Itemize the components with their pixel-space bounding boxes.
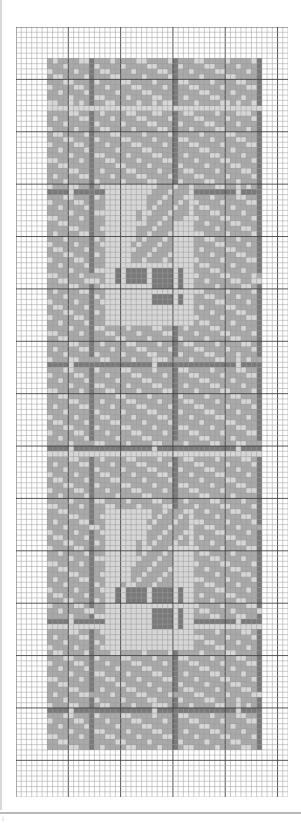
cross-stitch-chart: [16, 27, 288, 797]
bottom-divider: [0, 812, 301, 814]
grid-lines: [16, 27, 288, 797]
page-edge: [0, 0, 2, 810]
corner-mark: i: [2, 815, 4, 822]
